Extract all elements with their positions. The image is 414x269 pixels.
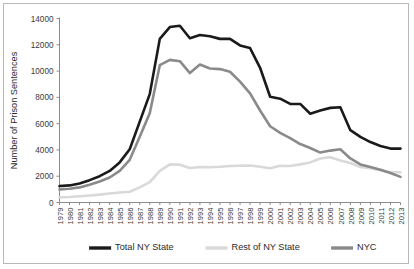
- x-tick-label: 1980: [66, 208, 75, 225]
- y-axis: 02000400060008000100001200014000: [31, 15, 60, 208]
- x-tick-label: 2013: [397, 208, 406, 225]
- x-axis: 1979198019811982198319841985198619871988…: [56, 203, 406, 225]
- y-tick-label: 12000: [31, 41, 54, 50]
- legend-swatch: [89, 246, 111, 249]
- x-tick-label: 1991: [176, 208, 185, 225]
- line-chart: 02000400060008000100001200014000 1979198…: [0, 0, 414, 269]
- x-tick-label: 1988: [146, 208, 155, 225]
- x-tick-label: 1993: [196, 208, 205, 225]
- x-tick-label: 2006: [326, 208, 335, 225]
- x-tick-label: 1981: [76, 208, 85, 225]
- chart-legend: Total NY StateRest of NY StateNYC: [89, 242, 377, 252]
- x-tick-label: 1979: [56, 208, 65, 225]
- y-tick-label: 2000: [35, 172, 54, 181]
- x-tick-label: 2003: [296, 208, 305, 225]
- x-tick-label: 1992: [186, 208, 195, 225]
- y-axis-title-text: Number of Prison Sentences: [9, 51, 19, 169]
- legend-label: Rest of NY State: [232, 242, 300, 252]
- x-tick-label: 2001: [276, 208, 285, 225]
- x-tick-label: 2007: [337, 208, 346, 225]
- legend-swatch: [206, 246, 228, 249]
- x-tick-label: 1997: [236, 208, 245, 225]
- legend-swatch: [331, 246, 353, 249]
- x-tick-label: 2010: [367, 208, 376, 225]
- x-tick-label: 1995: [216, 208, 225, 225]
- y-tick-label: 6000: [35, 120, 54, 129]
- y-tick-label: 4000: [35, 146, 54, 155]
- x-tick-label: 1994: [206, 208, 215, 225]
- y-tick-label: 10000: [31, 67, 54, 76]
- series-lines: [60, 26, 401, 198]
- x-tick-label: 1990: [166, 208, 175, 225]
- x-tick-label: 1985: [116, 208, 125, 225]
- x-tick-label: 1983: [96, 208, 105, 225]
- x-tick-label: 1986: [126, 208, 135, 225]
- x-tick-label: 1996: [226, 208, 235, 225]
- x-tick-label: 2004: [306, 208, 315, 225]
- x-tick-label: 2008: [347, 208, 356, 225]
- x-tick-label: 1984: [106, 208, 115, 225]
- y-tick-label: 0: [49, 199, 54, 208]
- x-tick-label: 2005: [316, 208, 325, 225]
- y-tick-label: 8000: [35, 93, 54, 102]
- chart-figure: 02000400060008000100001200014000 1979198…: [0, 0, 414, 269]
- x-tick-label: 2000: [266, 208, 275, 225]
- x-tick-label: 2002: [286, 208, 295, 225]
- x-tick-label: 1998: [246, 208, 255, 225]
- x-tick-label: 2009: [357, 208, 366, 225]
- x-tick-label: 1987: [136, 208, 145, 225]
- x-tick-label: 2012: [387, 208, 396, 225]
- x-tick-label: 2011: [377, 208, 386, 224]
- x-tick-label: 1982: [86, 208, 95, 225]
- x-tick-label: 1989: [156, 208, 165, 225]
- legend-label: NYC: [357, 242, 377, 252]
- y-tick-label: 14000: [31, 15, 54, 24]
- x-tick-label: 1999: [256, 208, 265, 225]
- legend-label: Total NY State: [115, 242, 174, 252]
- y-axis-title: Number of Prison Sentences: [9, 51, 19, 169]
